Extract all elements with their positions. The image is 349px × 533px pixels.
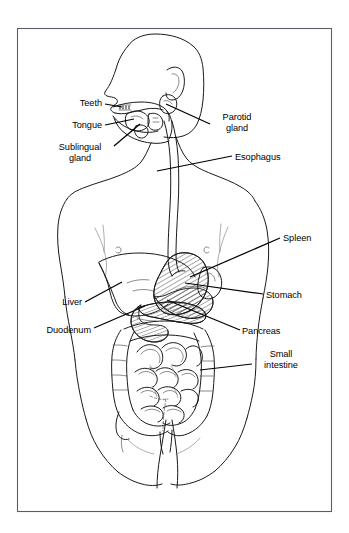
label-pancreas: Pancreas xyxy=(242,326,302,337)
label-small-intestine: Small intestine xyxy=(254,349,308,370)
label-tongue: Tongue xyxy=(54,120,102,131)
label-sublingual-gland: Sublingual gland xyxy=(51,142,109,163)
anatomy-figure: Teeth Tongue Sublingual gland Parotid gl… xyxy=(0,0,349,533)
label-stomach: Stomach xyxy=(266,290,322,301)
label-esophagus: Esophagus xyxy=(235,152,301,163)
label-liver: Liver xyxy=(50,297,82,308)
anatomy-drawing xyxy=(0,0,349,533)
label-teeth: Teeth xyxy=(66,98,102,109)
label-duodenum: Duodenum xyxy=(28,325,91,336)
label-parotid-gland: Parotid gland xyxy=(214,112,260,133)
label-spleen: Spleen xyxy=(283,233,331,244)
